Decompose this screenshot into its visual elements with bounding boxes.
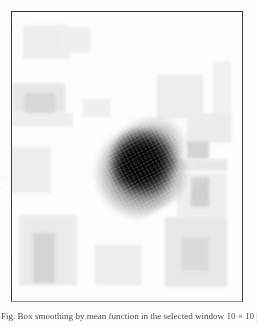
scanned-page: Fig. Box smoothing by mean function in t… [0, 0, 257, 326]
patch-left-mid [12, 147, 51, 193]
figure-frame [11, 11, 243, 302]
patch-top-left-upper-b [61, 27, 91, 53]
figure-plate-image [12, 12, 242, 301]
figure-caption-text: Fig. Box smoothing by mean function in t… [1, 312, 257, 322]
patch-bottom-left-dark [33, 233, 55, 283]
patch-left-band [13, 113, 73, 127]
patch-right-edge-strip [213, 61, 231, 119]
patch-bottom-right-dark [181, 237, 209, 271]
patch-mid-left-dark [25, 93, 55, 115]
patch-right-upper [187, 113, 231, 143]
patch-upper-mid [83, 99, 111, 117]
figure-caption: Fig. Box smoothing by mean function in t… [0, 312, 257, 326]
patch-bottom-center [95, 245, 141, 285]
